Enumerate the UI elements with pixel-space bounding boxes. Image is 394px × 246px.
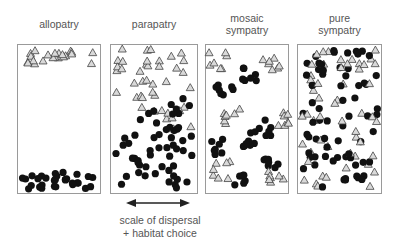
double-arrow-icon	[0, 0, 394, 246]
caption-dispersal: scale of dispersal+ habitat choice	[110, 214, 210, 240]
